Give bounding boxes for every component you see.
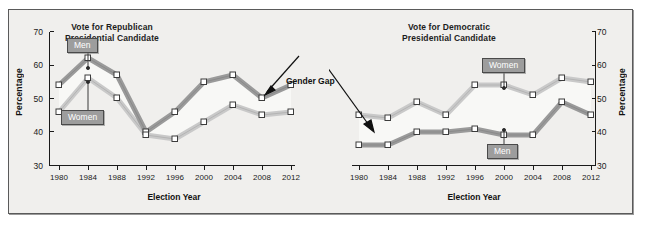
democratic-plot-svg [329, 10, 634, 215]
left-xtick-1980: 1980 [46, 173, 72, 182]
republican-plot-svg [9, 10, 329, 215]
right-xtick-2008: 2008 [549, 173, 575, 182]
left-xtick-2008: 2008 [249, 173, 275, 182]
right-xtick-1988: 1988 [404, 173, 430, 182]
gender-gap-annotation: Gender Gap [286, 76, 335, 86]
democratic-women-label: Women [482, 58, 525, 73]
left-xaxis-label: Election Year [124, 192, 224, 202]
left-xtick-1984: 1984 [75, 173, 101, 182]
figure-canvas: Vote for Republican Presidential Candida… [0, 0, 645, 228]
left-xtick-1996: 1996 [162, 173, 188, 182]
republican-gender-gap-fill [59, 58, 291, 139]
right-xtick-1992: 1992 [433, 173, 459, 182]
right-xtick-2004: 2004 [520, 173, 546, 182]
right-xtick-2012: 2012 [578, 173, 604, 182]
republican-chart-pane: Vote for Republican Presidential Candida… [9, 10, 329, 215]
chart-panel: Vote for Republican Presidential Candida… [8, 9, 633, 214]
left-xtick-2004: 2004 [220, 173, 246, 182]
right-xtick-1980: 1980 [346, 173, 372, 182]
right-xtick-2000: 2000 [491, 173, 517, 182]
left-xtick-2012: 2012 [278, 173, 304, 182]
right-xaxis-label: Election Year [424, 192, 524, 202]
republican-women-label: Women [61, 110, 104, 125]
republican-men-label: Men [67, 38, 98, 53]
democratic-men-label: Men [487, 144, 518, 159]
democratic-chart-pane: Vote for Democratic Presidential Candida… [329, 10, 634, 215]
left-xtick-1988: 1988 [104, 173, 130, 182]
right-xtick-1996: 1996 [462, 173, 488, 182]
right-xtick-1984: 1984 [375, 173, 401, 182]
left-xtick-1992: 1992 [133, 173, 159, 182]
left-xtick-2000: 2000 [191, 173, 217, 182]
